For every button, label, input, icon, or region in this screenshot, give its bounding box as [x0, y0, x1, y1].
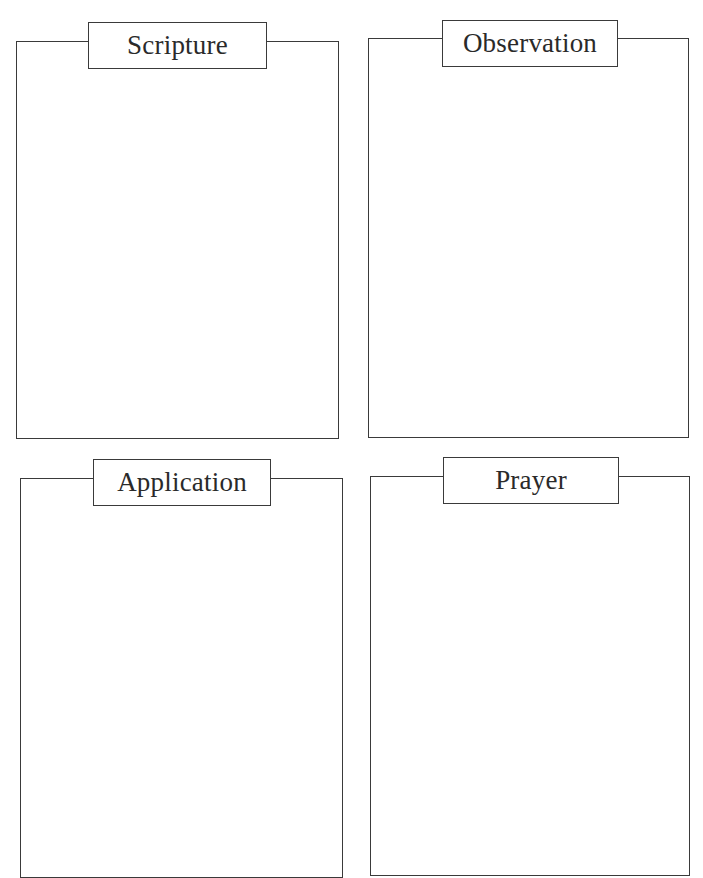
application-label: Application: [93, 459, 271, 506]
observation-writing-area[interactable]: [368, 38, 689, 438]
prayer-label: Prayer: [443, 457, 619, 504]
scripture-writing-area[interactable]: [16, 41, 339, 439]
scripture-label-text: Scripture: [127, 30, 228, 61]
observation-label: Observation: [442, 20, 618, 67]
prayer-writing-area[interactable]: [370, 476, 690, 876]
observation-label-text: Observation: [463, 28, 597, 59]
application-writing-area[interactable]: [20, 478, 343, 878]
prayer-label-text: Prayer: [495, 465, 567, 496]
scripture-label: Scripture: [88, 22, 267, 69]
application-label-text: Application: [117, 467, 247, 498]
